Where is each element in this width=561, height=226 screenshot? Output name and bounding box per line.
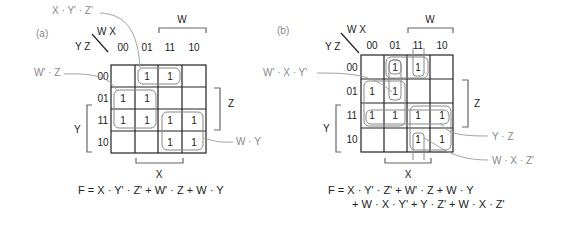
map-b-cell: 1 (415, 134, 421, 145)
map-b-col-vars: W X (347, 24, 366, 35)
map-b-col-header: 10 (436, 40, 448, 51)
map-b-cell: 1 (415, 62, 421, 73)
map-a-bracket-y (87, 105, 92, 152)
map-a-cell: 1 (120, 93, 126, 104)
map-b-col-header: 11 (413, 40, 424, 51)
map-a-bracket-x-label: X (156, 169, 163, 180)
map-b-row-vars: Y Z (325, 41, 340, 52)
map-b-cell: 1 (392, 86, 398, 97)
map-a-term-label: W' · Z (34, 67, 60, 78)
map-b-term-label: W · X · Z' (492, 155, 534, 166)
map-b-row-header: 00 (346, 62, 358, 73)
map-b-tag: (b) (277, 25, 289, 36)
map-b-term-label: W' · X · Y' (263, 67, 307, 78)
map-b-cell: 1 (369, 86, 375, 97)
kmap-a: (a) W X Y Z 00 01 11 10 00 01 11 10 1 1 … (34, 5, 261, 196)
map-a-bracket-z-label: Z (228, 98, 234, 109)
map-b-equation-line-1: F = X · Y' · Z' + W' · Z + W · Y (328, 184, 474, 196)
map-b-cell: 1 (369, 110, 375, 121)
map-b-term-label: Y · Z (492, 131, 513, 142)
map-b-bracket-w-label: W (425, 14, 435, 25)
map-a-cell: 1 (167, 137, 173, 148)
map-b-cell: 1 (392, 62, 398, 73)
map-b-cell: 1 (415, 110, 421, 121)
map-b-bracket-y (336, 105, 341, 152)
map-a-cell: 1 (191, 137, 197, 148)
map-a-row-header: 01 (97, 93, 109, 104)
map-a-bracket-w (159, 28, 206, 33)
map-a-col-header: 11 (165, 42, 176, 53)
map-a-col-vars: W X (97, 26, 116, 37)
map-a-col-header: 01 (141, 42, 153, 53)
map-a-bracket-y-label: Y (74, 124, 81, 135)
map-b-row-header: 10 (346, 134, 358, 145)
map-a-cell: 1 (120, 115, 126, 126)
karnaugh-map-figure: (a) W X Y Z 00 01 11 10 00 01 11 10 1 1 … (0, 0, 561, 226)
map-a-cell: 1 (144, 93, 150, 104)
map-b-bracket-w (408, 28, 453, 33)
map-a-row-header: 10 (97, 137, 109, 148)
map-b-diagonal (341, 33, 359, 53)
map-b-bracket-y-label: Y (323, 123, 330, 134)
map-a-cell: 1 (167, 115, 173, 126)
map-a-row-header: 11 (98, 115, 109, 126)
map-a-cell: 1 (167, 71, 173, 82)
map-a-term-label: W · Y (236, 136, 261, 147)
map-a-bracket-w-label: W (177, 14, 187, 25)
map-a-col-header: 10 (188, 42, 200, 53)
map-a-equation: F = X · Y' · Z' + W' · Z + W · Y (78, 184, 224, 196)
map-b-bracket-z-label: Z (474, 98, 480, 109)
map-b-bracket-z (462, 80, 468, 127)
map-b-col-header: 01 (389, 40, 401, 51)
map-b-col-header: 00 (366, 40, 378, 51)
map-b-bracket-x-label: X (405, 169, 412, 180)
map-b-equation-line-2: + W · X · Y' + Y · Z' + W · X · Z' (352, 198, 505, 210)
kmap-b: (b) W X Y Z 00 01 11 10 00 01 11 10 1 1 … (263, 14, 534, 210)
map-a-cell: 1 (144, 71, 150, 82)
map-b-row-header: 11 (347, 110, 358, 121)
map-a-term-label: X · Y' · Z' (52, 5, 93, 16)
map-a-row-vars: Y Z (75, 41, 90, 52)
map-a-tag: (a) (36, 28, 48, 39)
map-a-col-header: 00 (117, 42, 129, 53)
map-b-cell: 1 (392, 110, 398, 121)
map-a-cell: 1 (144, 115, 150, 126)
map-a-bracket-x (136, 158, 183, 163)
map-a-bracket-z (214, 88, 220, 130)
map-b-cell: 1 (439, 134, 445, 145)
map-b-cell: 1 (439, 110, 445, 121)
map-b-row-header: 01 (346, 86, 358, 97)
map-a-cell: 1 (191, 115, 197, 126)
